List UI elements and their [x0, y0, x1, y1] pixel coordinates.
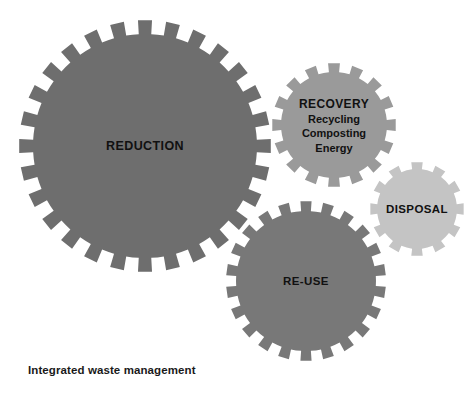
gear-shape-recovery — [272, 63, 395, 186]
gear-shape-disposal — [370, 162, 463, 255]
gear-diagram-canvas — [0, 0, 475, 397]
figure-caption: Integrated waste management — [28, 364, 196, 376]
gear-shape-reduction — [19, 20, 271, 272]
integrated-waste-management-figure: REDUCTION RECOVERY Recycling Composting … — [0, 0, 475, 397]
gear-shape-reuse — [226, 201, 386, 361]
